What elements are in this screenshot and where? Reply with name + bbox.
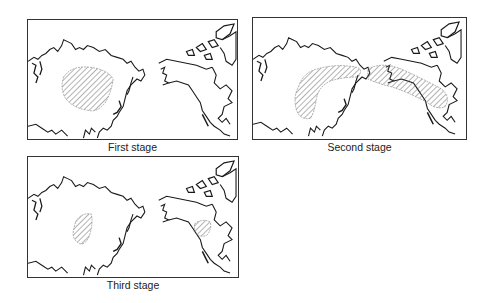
caption-third-stage: Third stage [27, 279, 239, 291]
distribution-region-eastern-north-america [194, 220, 210, 236]
map-frame-second-stage [252, 17, 467, 140]
distribution-region-alaska-canada-belt [368, 65, 448, 108]
world-map-first-stage [28, 20, 237, 139]
world-map-second-stage [253, 18, 466, 139]
caption-second-stage: Second stage [252, 141, 467, 153]
caption-first-stage: First stage [27, 141, 238, 153]
distribution-region-east-asia-coastal [73, 214, 92, 244]
world-map-third-stage [28, 157, 238, 277]
map-frame-first-stage [27, 19, 238, 140]
map-frame-third-stage [27, 156, 239, 278]
distribution-region-east-asia-interior [62, 67, 113, 111]
